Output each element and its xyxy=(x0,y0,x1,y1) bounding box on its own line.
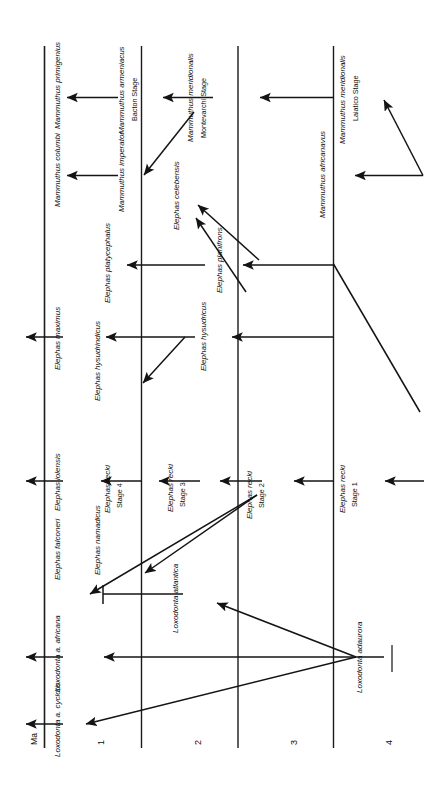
label-elephas-recki-stage-1-stage: Stage 1 xyxy=(350,482,359,507)
label-mammuthus-meridionalis-laiatico-stage: Laiatico Stage xyxy=(351,75,360,121)
arrow-to-loxodonta-a-cyclotis xyxy=(86,657,356,724)
label-elephas-namadicus: Elephas namadicus xyxy=(93,505,102,575)
label-elephas-recki-stage-4-stage: Stage 4 xyxy=(115,483,124,508)
label-elephas-recki-stage-2: Elephas recki xyxy=(245,471,254,519)
label-mammuthus-meridionalis-montevarchi: Mammuthus meridionalis xyxy=(186,53,195,142)
taxon-labels: Mammuthus primigenius Mammuthus armeniac… xyxy=(53,42,364,757)
label-elephas-platycephalus: Elephas platycephalus xyxy=(103,223,112,303)
time-axis-gridlines xyxy=(45,46,334,748)
label-mammuthus-columbi: Mammuthus columbi xyxy=(53,133,62,207)
tick-label-1: 1 xyxy=(96,740,106,745)
label-elephas-recki-stage-1: Elephas recki xyxy=(338,465,347,513)
root-stem-diagonal xyxy=(334,264,421,412)
label-elephas-recki-stage-3: Elephas recki xyxy=(166,464,175,512)
lineage-loxodonta-adaurora xyxy=(26,603,384,724)
label-elephas-recki-stage-3-stage: Stage 3 xyxy=(178,482,187,507)
label-loxodonta-atlantica: Loxodonta atlantica xyxy=(171,563,180,633)
label-mammuthus-meridionalis-montevarchi-stage: Montevarchi Stage xyxy=(199,78,208,138)
label-elephas-iolensis: Elephas iolensis xyxy=(53,453,62,511)
label-mammuthus-meridionalis-laiatico: Mammuthus meridionalis xyxy=(338,55,347,144)
label-elephas-maximus: Elephas maximus xyxy=(53,307,62,370)
label-elephas-recki-stage-4: Elephas recki xyxy=(103,465,112,513)
axis-tick-labels: Ma 1 2 3 4 xyxy=(29,733,394,745)
tick-label-4: 4 xyxy=(384,740,394,745)
arrow-recki-to-elephas-namadicus xyxy=(145,495,257,573)
arrow-to-mammuthus-meridionalis-laiatico xyxy=(384,100,423,176)
tick-label-2: 2 xyxy=(193,740,203,745)
label-mammuthus-imperator: Mammuthus imperator xyxy=(117,132,126,212)
lineage-mammuthus-africanavus xyxy=(355,100,423,176)
arrow-to-elephas-hysudrindicus xyxy=(143,337,185,383)
label-elephas-celebensis: Elephas celebensis xyxy=(172,161,181,230)
label-elephas-hysudrindicus: Elephas hysudrindicus xyxy=(93,321,102,401)
label-loxodonta-adaurora: Loxodonta adaurora xyxy=(355,621,364,693)
tick-label-3: 3 xyxy=(289,740,299,745)
label-elephas-falconeri: Elephas falconeri xyxy=(53,519,62,580)
label-mammuthus-armeniacus: Mammuthus armeniacus xyxy=(117,46,126,134)
label-mammuthus-primigenius-line1: Mammuthus primigenius xyxy=(53,42,62,129)
label-loxodonta-a-africana: Loxodonta a. africana xyxy=(53,615,62,692)
label-elephas-recki-stage-2-stage: Stage 2 xyxy=(257,483,266,508)
label-mammuthus-armeniacus-stage: Bacton Stage xyxy=(130,78,139,121)
arrow-planifrons-to-elephas-celebensis xyxy=(198,205,259,260)
label-elephas-planifrons: Elephas planifrons xyxy=(215,227,224,293)
label-mammuthus-africanavus: Mammuthus africanavus xyxy=(318,131,327,218)
axis-unit-label: Ma xyxy=(29,733,39,745)
label-loxodonta-a-cyclotis: Loxodonta a. cyclotis xyxy=(53,682,62,757)
phylogeny-figure: Ma 1 2 3 4 xyxy=(0,0,439,787)
label-elephas-hysudricus: Elephas hysudricus xyxy=(199,302,208,371)
phylogeny-chart: Ma 1 2 3 4 xyxy=(0,0,439,787)
